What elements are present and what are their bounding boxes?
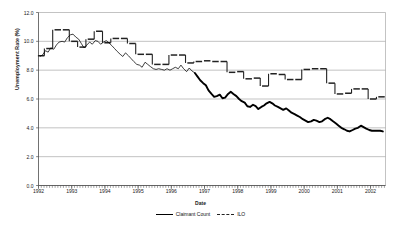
y-tick-label: 10.0 <box>8 38 34 44</box>
y-tick-label: 4.0 <box>8 125 34 131</box>
y-tick-label: 12.0 <box>8 10 34 16</box>
legend-item-claimant-count: Claimant Count <box>156 212 210 217</box>
unemployment-rate-chart: Unemployment Rate (%) Date 0.02.04.06.08… <box>0 0 401 229</box>
x-major-ticks <box>36 13 370 189</box>
chart-plot-area <box>0 0 401 229</box>
legend-label-claimant-count: Claimant Count <box>176 212 210 217</box>
y-tick-label: 6.0 <box>8 96 34 102</box>
x-tick-label: 2002 <box>351 188 391 194</box>
y-tick-label: 2.0 <box>8 154 34 160</box>
series-ilo <box>38 30 385 99</box>
solid-line-icon <box>156 214 173 215</box>
y-tick-label: 8.0 <box>8 67 34 73</box>
x-axis-title: Date <box>0 200 401 206</box>
dashed-line-icon <box>217 214 234 215</box>
chart-legend: Claimant Count ILO <box>0 212 401 217</box>
legend-label-ilo: ILO <box>237 212 245 217</box>
legend-item-ilo: ILO <box>217 212 245 217</box>
